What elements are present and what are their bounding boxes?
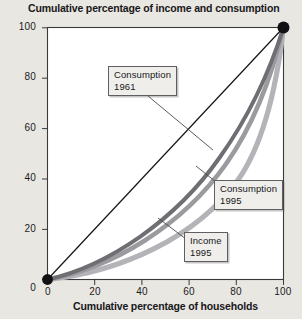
y-axis-ticks xyxy=(42,28,48,280)
x-axis-ticks xyxy=(48,280,284,286)
x-tick-label-0: 0 xyxy=(33,286,63,297)
annotation-consumption-1961-line2: 1961 xyxy=(114,81,171,93)
annotation-consumption-1995: Consumption 1995 xyxy=(214,180,283,210)
x-tick-label-20: 20 xyxy=(80,286,110,297)
annotation-consumption-1961: Consumption 1961 xyxy=(108,66,177,96)
x-tick-label-80: 80 xyxy=(221,286,251,297)
y-tick-label-80: 80 xyxy=(2,71,36,82)
y-tick-label-100: 100 xyxy=(2,21,36,32)
y-tick-label-60: 60 xyxy=(2,122,36,133)
y-tick-label-0: 0 xyxy=(2,282,36,293)
x-axis-title: Cumulative percentage of households xyxy=(73,300,258,312)
y-tick-label-20: 20 xyxy=(2,223,36,234)
y-tick-label-40: 40 xyxy=(2,172,36,183)
annotation-income-1995-line2: 1995 xyxy=(190,247,222,259)
lorenz-curve-chart: Cumulative percentage of income and cons… xyxy=(0,0,302,319)
apex-marker xyxy=(278,22,290,34)
x-tick-label-100: 100 xyxy=(268,286,298,297)
annotation-income-1995-line1: Income xyxy=(190,235,222,247)
annotation-income-1995: Income 1995 xyxy=(184,232,228,262)
x-tick-label-40: 40 xyxy=(127,286,157,297)
annotation-consumption-1961-line1: Consumption xyxy=(114,69,171,81)
annotation-consumption-1995-line1: Consumption xyxy=(220,183,277,195)
chart-canvas xyxy=(0,0,302,319)
origin-marker xyxy=(42,274,53,285)
x-tick-label-60: 60 xyxy=(174,286,204,297)
annotation-consumption-1995-line2: 1995 xyxy=(220,195,277,207)
